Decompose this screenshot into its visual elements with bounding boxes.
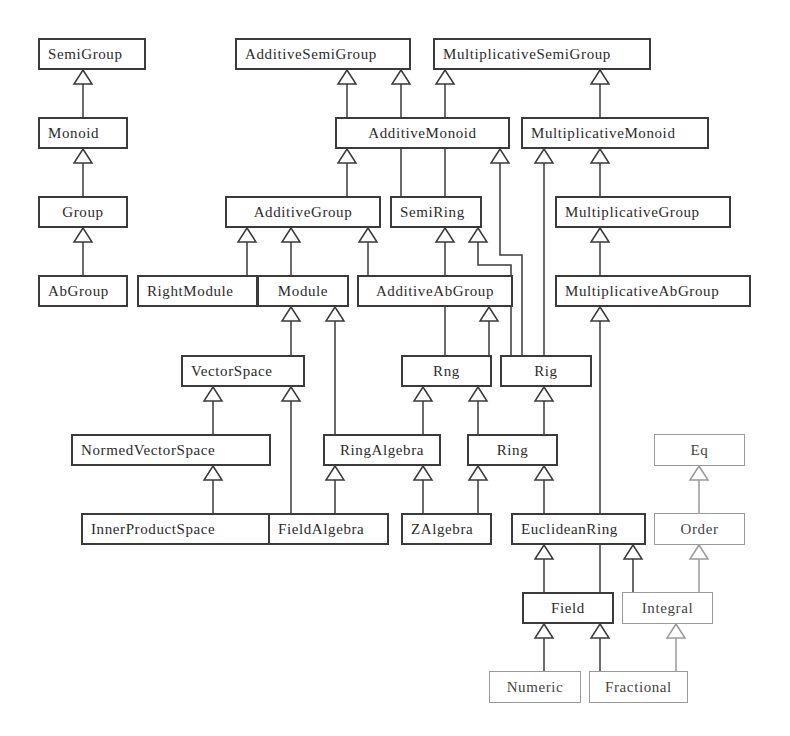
class-node-module: Module bbox=[257, 275, 349, 307]
inheritance-arrow-icon bbox=[591, 70, 609, 84]
inheritance-arrow-icon bbox=[535, 466, 553, 480]
class-label: Eq bbox=[691, 442, 709, 459]
inheritance-arrow-icon bbox=[591, 228, 609, 242]
inheritance-arrow-icon bbox=[338, 149, 356, 163]
inheritance-arrow-icon bbox=[591, 624, 609, 638]
inheritance-arrow-icon bbox=[491, 149, 509, 163]
class-label: EuclideanRing bbox=[521, 521, 618, 538]
inheritance-arrow-icon bbox=[535, 624, 553, 638]
class-label: Monoid bbox=[48, 125, 99, 142]
class-label: Field bbox=[551, 600, 585, 617]
inheritance-arrow-icon bbox=[690, 545, 708, 559]
inheritance-arrow-icon bbox=[480, 307, 498, 321]
class-label: SemiGroup bbox=[48, 46, 123, 63]
class-hierarchy-diagram: SemiGroupMonoidGroupAbGroupAdditiveSemiG… bbox=[0, 0, 790, 736]
inheritance-arrow-icon bbox=[690, 466, 708, 480]
class-node-rng: Rng bbox=[401, 355, 492, 387]
inheritance-arrow-icon bbox=[436, 228, 454, 242]
inheritance-arrow-icon bbox=[238, 228, 256, 242]
inheritance-arrow-icon bbox=[535, 545, 553, 559]
class-node-integral: Integral bbox=[622, 592, 713, 624]
class-label: Ring bbox=[497, 442, 529, 459]
class-node-fieldalgebra: FieldAlgebra bbox=[268, 513, 389, 545]
inheritance-arrow-icon bbox=[535, 387, 553, 401]
class-label: AdditiveMonoid bbox=[368, 125, 476, 142]
class-node-numeric: Numeric bbox=[489, 671, 581, 703]
class-label: MultiplicativeAbGroup bbox=[565, 283, 719, 300]
class-node-additivemonoid: AdditiveMonoid bbox=[335, 117, 510, 149]
class-node-abgroup: AbGroup bbox=[38, 275, 128, 307]
inheritance-arrow-icon bbox=[74, 70, 92, 84]
class-node-ringalgebra: RingAlgebra bbox=[323, 434, 441, 466]
class-label: Fractional bbox=[605, 679, 672, 696]
inheritance-arrow-icon bbox=[359, 228, 377, 242]
class-node-field: Field bbox=[522, 592, 614, 624]
class-node-monoid: Monoid bbox=[38, 117, 128, 149]
inheritance-arrow-icon bbox=[469, 387, 487, 401]
class-node-semigroup: SemiGroup bbox=[38, 38, 146, 70]
inheritance-arrow-icon bbox=[414, 387, 432, 401]
class-label: AdditiveSemiGroup bbox=[245, 46, 377, 63]
class-label: ZAlgebra bbox=[411, 521, 473, 538]
inheritance-arrow-icon bbox=[591, 149, 609, 163]
class-node-normedvectorspace: NormedVectorSpace bbox=[71, 434, 271, 466]
class-label: MultiplicativeSemiGroup bbox=[443, 46, 611, 63]
class-label: Rig bbox=[534, 363, 557, 380]
class-node-innerproductspace: InnerProductSpace bbox=[81, 513, 271, 545]
class-node-ring: Ring bbox=[467, 434, 558, 466]
class-node-additivesemigroup: AdditiveSemiGroup bbox=[235, 38, 411, 70]
class-label: AdditiveAbGroup bbox=[376, 283, 494, 300]
class-label: SemiRing bbox=[400, 204, 465, 221]
class-label: InnerProductSpace bbox=[91, 521, 215, 538]
class-node-group: Group bbox=[38, 196, 128, 228]
class-label: NormedVectorSpace bbox=[81, 442, 215, 459]
class-node-multiplicativegroup: MultiplicativeGroup bbox=[555, 196, 731, 228]
class-label: Group bbox=[62, 204, 103, 221]
class-label: Numeric bbox=[507, 679, 564, 696]
class-node-zalgebra: ZAlgebra bbox=[401, 513, 492, 545]
class-label: MultiplicativeMonoid bbox=[531, 125, 676, 142]
class-label: Integral bbox=[642, 600, 693, 617]
inheritance-arrow-icon bbox=[436, 70, 454, 84]
class-node-semiring: SemiRing bbox=[390, 196, 482, 228]
class-node-vectorspace: VectorSpace bbox=[181, 355, 305, 387]
class-label: VectorSpace bbox=[191, 363, 273, 380]
class-label: RightModule bbox=[147, 283, 234, 300]
inheritance-arrow-icon bbox=[326, 307, 344, 321]
inheritance-arrow-icon bbox=[74, 149, 92, 163]
class-label: FieldAlgebra bbox=[278, 521, 364, 538]
class-label: Module bbox=[278, 283, 328, 300]
class-node-additiveabgroup: AdditiveAbGroup bbox=[357, 275, 513, 307]
class-node-euclideanring: EuclideanRing bbox=[511, 513, 646, 545]
inheritance-arrow-icon bbox=[282, 387, 300, 401]
inheritance-arrow-icon bbox=[74, 228, 92, 242]
inheritance-arrow-icon bbox=[591, 307, 609, 321]
inheritance-arrow-icon bbox=[282, 228, 300, 242]
class-label: AbGroup bbox=[48, 283, 109, 300]
class-label: Order bbox=[681, 521, 719, 538]
inheritance-arrow-icon bbox=[667, 624, 685, 638]
class-node-fractional: Fractional bbox=[589, 671, 688, 703]
inheritance-arrow-icon bbox=[535, 149, 553, 163]
inheritance-arrow-icon bbox=[469, 228, 487, 242]
class-node-additivegroup: AdditiveGroup bbox=[225, 196, 381, 228]
inheritance-arrow-icon bbox=[204, 387, 222, 401]
class-node-multiplicativesemigroup: MultiplicativeSemiGroup bbox=[433, 38, 651, 70]
inheritance-arrow-icon bbox=[204, 466, 222, 480]
inheritance-arrow-icon bbox=[624, 545, 642, 559]
inheritance-arrow-icon bbox=[414, 466, 432, 480]
class-label: RingAlgebra bbox=[340, 442, 424, 459]
inheritance-arrow-icon bbox=[469, 466, 487, 480]
class-node-multiplicativemonoid: MultiplicativeMonoid bbox=[521, 117, 709, 149]
inheritance-edges bbox=[0, 0, 790, 736]
class-node-multiplicativeabgroup: MultiplicativeAbGroup bbox=[555, 275, 751, 307]
inheritance-arrow-icon bbox=[392, 70, 410, 84]
inheritance-arrow-icon bbox=[338, 70, 356, 84]
class-node-order: Order bbox=[654, 513, 745, 545]
class-label: MultiplicativeGroup bbox=[565, 204, 700, 221]
inheritance-arrow-icon bbox=[326, 466, 344, 480]
class-label: Rng bbox=[433, 363, 460, 380]
inheritance-arrow-icon bbox=[282, 307, 300, 321]
class-node-rig: Rig bbox=[500, 355, 592, 387]
class-label: AdditiveGroup bbox=[254, 204, 353, 221]
